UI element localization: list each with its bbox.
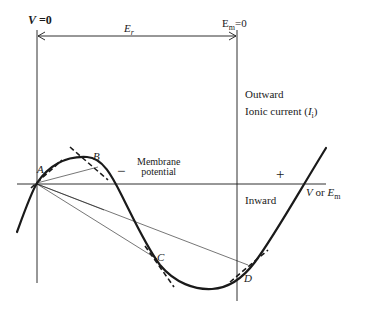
v-zero-rest: =0 xyxy=(36,13,52,27)
membrane-line2: potential xyxy=(137,167,180,177)
inward-label: Inward xyxy=(245,195,276,206)
ionic-current-label: Ionic current (Ii) xyxy=(245,106,318,120)
iv-curve-diagram xyxy=(0,0,365,309)
er-label: Er xyxy=(124,23,134,37)
em-zero-rest: =0 xyxy=(235,17,247,29)
ionic-current-suffix: ) xyxy=(314,105,318,117)
chord-a-mid xyxy=(37,184,104,210)
chord-a-c xyxy=(37,184,157,259)
axis-label: V or Em xyxy=(306,187,340,201)
er-sub: r xyxy=(131,28,134,37)
ionic-current-prefix: Ionic current ( xyxy=(245,105,308,117)
axis-v: V xyxy=(306,186,313,198)
er-main: E xyxy=(124,22,131,34)
em-zero-label: Em=0 xyxy=(222,18,247,32)
point-b-label: B xyxy=(93,151,100,162)
minus-sign: − xyxy=(117,164,125,179)
plus-sign: + xyxy=(276,167,284,182)
point-a-label: A xyxy=(37,164,44,175)
v-zero-label: V =0 xyxy=(28,14,52,26)
membrane-potential-label: Membrane potential xyxy=(137,157,180,177)
point-d-label: D xyxy=(244,273,252,284)
v-zero-symbol: V xyxy=(28,13,36,27)
outward-label: Outward xyxy=(245,89,284,100)
point-c-label: C xyxy=(157,252,164,263)
axis-em-sub: m xyxy=(334,192,340,201)
axis-or: or xyxy=(313,186,328,198)
em-zero-main: E xyxy=(222,17,229,29)
